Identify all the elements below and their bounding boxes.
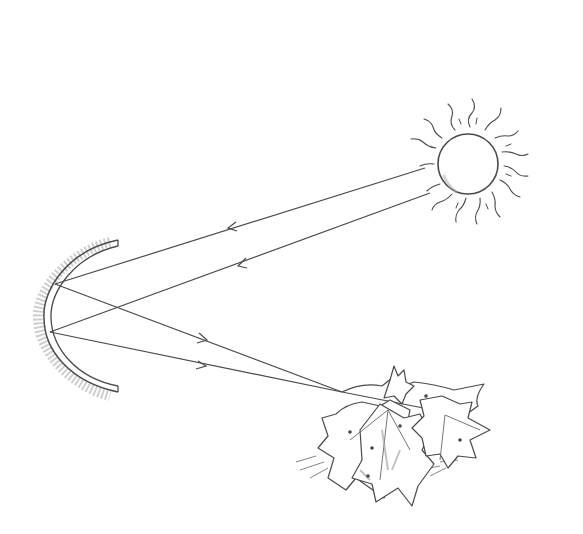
- sun-icon: [411, 99, 528, 224]
- reflected-ray-1: [55, 284, 342, 392]
- light-rays: [50, 168, 430, 392]
- concave-mirror: [38, 240, 118, 396]
- mirror-sunlight-illustration: [0, 0, 583, 534]
- incoming-ray-2: [50, 193, 430, 332]
- reflected-ray-2: [50, 332, 342, 392]
- leaves-icon: [296, 366, 490, 506]
